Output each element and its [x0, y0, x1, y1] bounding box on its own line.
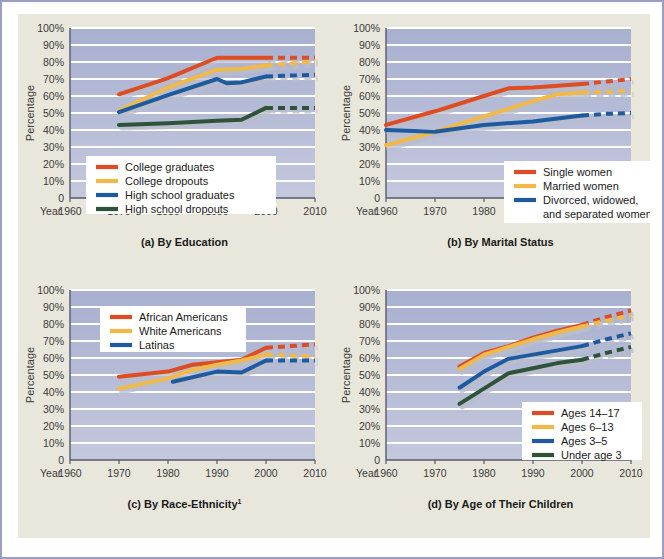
legend-label: Single women [543, 166, 612, 178]
y-axis-title: Percentage [340, 85, 352, 141]
x-tick-label: 2000 [254, 467, 278, 479]
chart-panel-b: 100%90%80%70%60%50%40%30%20%10%019601970… [334, 14, 650, 276]
y-axis-title: Percentage [340, 347, 352, 403]
y-tick-label: 50% [359, 107, 380, 119]
x-tick-label: 1960 [58, 205, 82, 217]
y-tick-label: 30% [359, 403, 380, 415]
x-axis-title: Year [40, 205, 62, 217]
figure-inner-panel: 100%90%80%70%60%50%40%30%20%10%019601970… [18, 14, 650, 538]
y-tick-label: 60% [359, 90, 380, 102]
x-tick-label: 1980 [156, 467, 180, 479]
y-tick-label: 0 [58, 454, 64, 466]
y-tick-label: 40% [43, 386, 64, 398]
y-tick-label: 0 [58, 192, 64, 204]
x-tick-label: 1980 [472, 205, 496, 217]
y-tick-label: 70% [359, 335, 380, 347]
figure-page-frame: 100%90%80%70%60%50%40%30%20%10%019601970… [0, 0, 664, 559]
y-tick-label: 90% [359, 301, 380, 313]
y-tick-label: 0 [374, 192, 380, 204]
y-tick-label: 0 [374, 454, 380, 466]
chart-legend: College graduatesCollege dropoutsHigh sc… [86, 156, 276, 215]
legend-label: College dropouts [125, 175, 209, 187]
x-tick-label: 1980 [472, 467, 496, 479]
legend-label: African Americans [139, 311, 228, 323]
x-tick-label: 1970 [423, 467, 447, 479]
panel-caption: (c) By Race-Ethnicity1 [128, 498, 242, 510]
y-tick-label: 60% [359, 352, 380, 364]
y-tick-label: 40% [43, 124, 64, 136]
y-tick-label: 50% [43, 107, 64, 119]
legend-label: Latinas [139, 339, 175, 351]
y-tick-label: 20% [359, 420, 380, 432]
y-tick-label: 80% [359, 318, 380, 330]
legend-label: Married women [543, 180, 619, 192]
y-tick-label: 60% [43, 352, 64, 364]
legend-label: Under age 3 [561, 449, 622, 461]
x-tick-label: 1990 [521, 467, 545, 479]
y-tick-label: 20% [359, 158, 380, 170]
y-axis-title: Percentage [24, 85, 36, 141]
x-tick-label: 2000 [570, 467, 594, 479]
y-axis-title: Percentage [24, 347, 36, 403]
y-tick-label: 70% [43, 335, 64, 347]
y-tick-label: 10% [43, 437, 64, 449]
y-tick-label: 80% [43, 318, 64, 330]
y-tick-label: 50% [43, 369, 64, 381]
x-tick-label: 2010 [303, 467, 327, 479]
panel-caption: (d) By Age of Their Children [428, 498, 574, 510]
legend-label: High school dropouts [125, 203, 229, 215]
y-tick-label: 80% [359, 56, 380, 68]
y-tick-label: 100% [37, 284, 64, 296]
y-tick-label: 30% [43, 141, 64, 153]
x-tick-label: 1960 [374, 467, 398, 479]
x-tick-label: 1960 [374, 205, 398, 217]
x-axis-title: Year [356, 205, 378, 217]
legend-label-continued: and separated women [543, 208, 650, 220]
x-tick-label: 2010 [619, 467, 643, 479]
chart-legend: Ages 14–17Ages 6–13Ages 3–5Under age 3 [522, 402, 642, 461]
legend-label: Ages 14–17 [561, 407, 620, 419]
x-tick-label: 1990 [205, 467, 229, 479]
y-tick-label: 10% [359, 175, 380, 187]
y-tick-label: 70% [43, 73, 64, 85]
chart-panel-c: 100%90%80%70%60%50%40%30%20%10%019601970… [18, 276, 334, 538]
legend-label: White Americans [139, 325, 222, 337]
x-tick-label: 1960 [58, 467, 82, 479]
y-tick-label: 60% [43, 90, 64, 102]
y-tick-label: 30% [359, 141, 380, 153]
chart-legend: African AmericansWhite AmericansLatinas [100, 306, 246, 352]
y-tick-label: 40% [359, 386, 380, 398]
legend-label: College graduates [125, 161, 215, 173]
y-tick-label: 100% [353, 22, 380, 34]
x-axis-title: Year [40, 467, 62, 479]
panel-c-svg: 100%90%80%70%60%50%40%30%20%10%019601970… [18, 276, 334, 538]
legend-label: High school graduates [125, 189, 235, 201]
panel-caption: (b) By Marital Status [447, 236, 553, 248]
y-tick-label: 20% [43, 420, 64, 432]
y-tick-label: 100% [37, 22, 64, 34]
legend-label: Ages 6–13 [561, 421, 614, 433]
x-tick-label: 2010 [303, 205, 327, 217]
chart-panel-d: 100%90%80%70%60%50%40%30%20%10%019601970… [334, 276, 650, 538]
panel-d-svg: 100%90%80%70%60%50%40%30%20%10%019601970… [334, 276, 650, 538]
x-tick-label: 1970 [423, 205, 447, 217]
y-tick-label: 90% [43, 39, 64, 51]
y-tick-label: 90% [359, 39, 380, 51]
y-tick-label: 90% [43, 301, 64, 313]
y-tick-label: 30% [43, 403, 64, 415]
y-tick-label: 10% [43, 175, 64, 187]
panel-caption: (a) By Education [141, 236, 228, 248]
y-tick-label: 10% [359, 437, 380, 449]
panel-a-svg: 100%90%80%70%60%50%40%30%20%10%019601970… [18, 14, 334, 276]
y-tick-label: 50% [359, 369, 380, 381]
y-tick-label: 100% [353, 284, 380, 296]
x-tick-label: 1970 [107, 467, 131, 479]
chart-legend: Single womenMarried womenDivorced, widow… [504, 161, 650, 223]
legend-label: Ages 3–5 [561, 435, 607, 447]
caption-superscript: 1 [238, 498, 242, 505]
x-axis-title: Year [356, 467, 378, 479]
y-tick-label: 80% [43, 56, 64, 68]
panel-b-svg: 100%90%80%70%60%50%40%30%20%10%019601970… [334, 14, 650, 276]
legend-label: Divorced, widowed, [543, 194, 638, 206]
chart-panel-a: 100%90%80%70%60%50%40%30%20%10%019601970… [18, 14, 334, 276]
